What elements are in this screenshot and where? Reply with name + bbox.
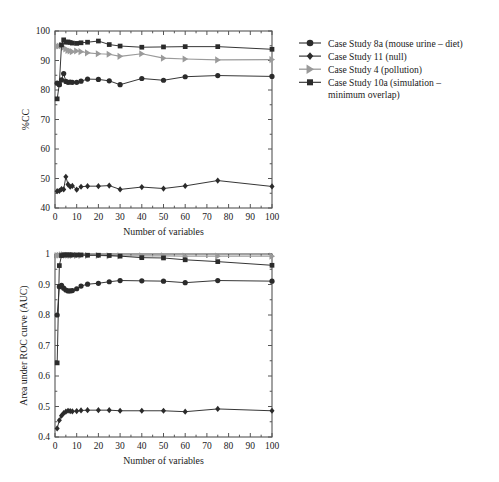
circle-marker bbox=[118, 82, 123, 87]
square-marker bbox=[118, 254, 123, 259]
circle-marker bbox=[307, 40, 314, 47]
circle-marker bbox=[61, 71, 66, 76]
y-tick-label: 40 bbox=[41, 203, 51, 213]
circle-marker bbox=[85, 282, 90, 287]
circle-marker bbox=[215, 278, 220, 283]
circle-marker bbox=[55, 312, 60, 317]
square-marker bbox=[55, 97, 60, 102]
y-tick-label: 0.6 bbox=[38, 371, 50, 381]
x-tick-label: 70 bbox=[202, 441, 212, 451]
x-tick-label: 50 bbox=[159, 212, 169, 222]
x-tick-label: 90 bbox=[246, 441, 256, 451]
circle-marker bbox=[161, 78, 166, 83]
circle-marker bbox=[78, 79, 83, 84]
circle-marker bbox=[269, 74, 274, 79]
circle-marker bbox=[183, 280, 188, 285]
legend-label-wrap: minimum overlap) bbox=[328, 89, 400, 101]
x-tick-label: 20 bbox=[94, 212, 104, 222]
circle-marker bbox=[269, 279, 274, 284]
circle-marker bbox=[118, 278, 123, 283]
square-marker bbox=[85, 40, 90, 45]
square-marker bbox=[215, 259, 220, 264]
circle-marker bbox=[78, 283, 83, 288]
square-marker bbox=[215, 44, 220, 49]
square-marker bbox=[307, 79, 313, 85]
x-axis-label: Number of variables bbox=[123, 455, 204, 466]
x-tick-label: 40 bbox=[137, 212, 147, 222]
y-tick-label: 0.8 bbox=[38, 310, 50, 320]
square-marker bbox=[118, 44, 123, 49]
x-tick-label: 10 bbox=[72, 441, 82, 451]
square-marker bbox=[96, 39, 101, 44]
square-marker bbox=[70, 253, 75, 258]
y-axis-label: %CC bbox=[20, 109, 31, 130]
x-tick-label: 60 bbox=[180, 441, 190, 451]
square-marker bbox=[139, 255, 144, 260]
x-tick-label: 60 bbox=[180, 212, 190, 222]
x-tick-label: 0 bbox=[53, 212, 58, 222]
x-tick-label: 80 bbox=[224, 212, 234, 222]
square-marker bbox=[270, 47, 275, 52]
y-axis-label: Area under ROC curve (AUC) bbox=[18, 285, 30, 405]
square-marker bbox=[59, 43, 64, 48]
circle-marker bbox=[183, 74, 188, 79]
y-tick-label: 90 bbox=[41, 56, 51, 66]
x-tick-label: 40 bbox=[137, 441, 147, 451]
square-marker bbox=[55, 361, 60, 366]
legend-label: Case Study 11 (null) bbox=[328, 51, 407, 63]
figure-root: 0102030405060708090100405060708090100Num… bbox=[0, 0, 499, 482]
x-tick-label: 20 bbox=[94, 441, 104, 451]
legend-label: Case Study 8a (mouse urine – diet) bbox=[328, 38, 463, 50]
y-tick-label: 60 bbox=[41, 144, 51, 154]
x-axis-label: Number of variables bbox=[123, 226, 204, 237]
square-marker bbox=[139, 45, 144, 50]
x-tick-label: 30 bbox=[115, 212, 125, 222]
circle-marker bbox=[215, 73, 220, 78]
x-tick-label: 100 bbox=[265, 212, 280, 222]
y-tick-label: 0.5 bbox=[38, 402, 50, 412]
square-marker bbox=[57, 82, 62, 87]
square-marker bbox=[85, 253, 90, 258]
square-marker bbox=[70, 41, 75, 46]
x-tick-label: 100 bbox=[265, 441, 280, 451]
y-tick-label: 1 bbox=[45, 249, 50, 259]
y-tick-label: 100 bbox=[36, 26, 51, 36]
x-tick-label: 70 bbox=[202, 212, 212, 222]
y-tick-label: 70 bbox=[41, 115, 51, 125]
square-marker bbox=[270, 263, 275, 268]
legend-label: Case Study 10a (simulation – bbox=[328, 77, 441, 89]
y-tick-label: 0.7 bbox=[38, 341, 50, 351]
square-marker bbox=[107, 42, 112, 47]
circle-marker bbox=[96, 281, 101, 286]
square-marker bbox=[57, 263, 62, 268]
y-tick-label: 80 bbox=[41, 85, 51, 95]
square-marker bbox=[161, 45, 166, 50]
square-marker bbox=[107, 253, 112, 258]
y-tick-label: 50 bbox=[41, 174, 51, 184]
square-marker bbox=[74, 41, 79, 46]
circle-marker bbox=[107, 279, 112, 284]
circle-marker bbox=[107, 78, 112, 83]
square-marker bbox=[79, 253, 84, 258]
square-marker bbox=[161, 256, 166, 261]
square-marker bbox=[183, 257, 188, 262]
square-marker bbox=[96, 253, 101, 258]
circle-marker bbox=[139, 278, 144, 283]
circle-marker bbox=[96, 77, 101, 82]
legend-label: Case Study 4 (pollution) bbox=[328, 64, 422, 76]
circle-marker bbox=[161, 279, 166, 284]
circle-marker bbox=[139, 76, 144, 81]
x-tick-label: 80 bbox=[224, 441, 234, 451]
square-marker bbox=[79, 40, 84, 45]
x-tick-label: 90 bbox=[246, 212, 256, 222]
square-marker bbox=[183, 44, 188, 49]
y-tick-label: 0.4 bbox=[38, 432, 50, 442]
x-tick-label: 50 bbox=[159, 441, 169, 451]
square-marker bbox=[74, 253, 79, 258]
circle-marker bbox=[74, 286, 79, 291]
x-tick-label: 30 bbox=[115, 441, 125, 451]
y-tick-label: 0.9 bbox=[38, 280, 50, 290]
x-tick-label: 0 bbox=[53, 441, 58, 451]
x-tick-label: 10 bbox=[72, 212, 82, 222]
circle-marker bbox=[74, 80, 79, 85]
